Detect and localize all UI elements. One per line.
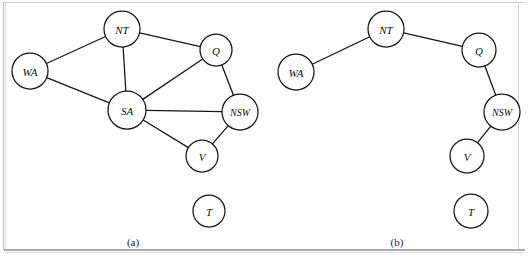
graph-edge-panel-a-NT-SA [123, 47, 126, 91]
graph-edge-panel-b-NSW-V [478, 126, 491, 143]
node-label-Q: Q [212, 45, 220, 57]
graph-node-panel-b-NSW[interactable]: NSW [484, 94, 520, 130]
graph-edge-panel-a-NT-Q [140, 33, 201, 47]
node-label-Q: Q [475, 45, 483, 57]
node-label-WA: WA [288, 67, 303, 79]
graph-node-panel-a-V[interactable]: V [186, 140, 218, 172]
node-label-NSW: NSW [229, 107, 252, 118]
node-label-T: T [206, 206, 213, 218]
graph-node-panel-b-Q[interactable]: Q [462, 33, 496, 67]
graph-nodes-layer: WANTQSANSWVTWANTQNSWVT [12, 11, 520, 228]
graph-node-panel-b-WA[interactable]: WA [278, 54, 314, 90]
node-label-NT: NT [114, 24, 129, 36]
constraint-graph-canvas: WANTQSANSWVTWANTQNSWVT [0, 0, 528, 266]
graph-edge-panel-b-Q-NSW [485, 66, 496, 95]
panel-b-caption: (b) [391, 236, 404, 248]
panel-a-caption: (a) [127, 236, 139, 248]
graph-edge-panel-b-WA-NT [312, 37, 370, 64]
node-label-NSW: NSW [491, 107, 514, 118]
graph-edge-panel-a-SA-NSW [146, 110, 222, 111]
graph-node-panel-b-V[interactable]: V [450, 139, 484, 173]
graph-edge-panel-a-WA-SA [47, 78, 110, 103]
node-label-NT: NT [378, 24, 393, 36]
graph-edge-panel-a-WA-NT [46, 36, 105, 63]
graph-node-panel-b-T[interactable]: T [454, 194, 488, 228]
graph-edges-layer [46, 33, 495, 148]
graph-edge-panel-a-SA-Q [143, 59, 203, 99]
graph-edge-panel-a-SA-V [143, 120, 188, 148]
node-label-T: T [468, 206, 475, 218]
graph-node-panel-a-NSW[interactable]: NSW [222, 94, 258, 130]
graph-node-panel-a-SA[interactable]: SA [108, 91, 146, 129]
graph-node-panel-a-T[interactable]: T [193, 195, 225, 227]
graph-node-panel-a-WA[interactable]: WA [12, 53, 48, 89]
figure-root: WANTQSANSWVTWANTQNSWVT (a) (b) [0, 0, 528, 266]
graph-node-panel-a-Q[interactable]: Q [200, 34, 232, 66]
node-label-SA: SA [121, 105, 134, 117]
graph-edge-panel-a-Q-NSW [222, 65, 234, 95]
graph-node-panel-a-NT[interactable]: NT [104, 11, 140, 47]
graph-node-panel-b-NT[interactable]: NT [368, 11, 404, 47]
node-label-WA: WA [22, 66, 37, 78]
graph-edge-panel-b-NT-Q [404, 33, 463, 46]
graph-edge-panel-a-NSW-V [212, 126, 228, 144]
